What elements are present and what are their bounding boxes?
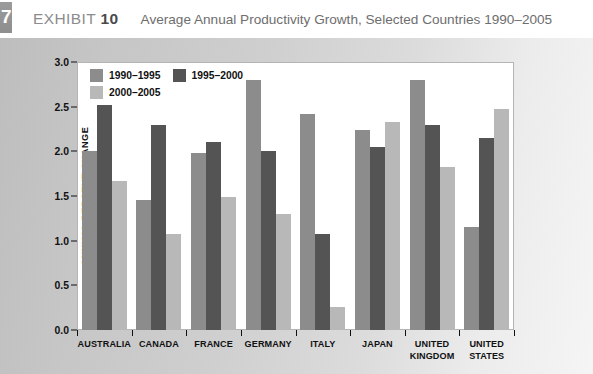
bar (191, 153, 206, 330)
x-axis-label-text: UNITEDSTATES (469, 339, 504, 361)
legend-swatch (173, 69, 186, 82)
x-axis-tick-mark (296, 330, 297, 336)
x-axis-label-text: ITALY (310, 339, 335, 349)
x-axis-tick-mark (459, 330, 460, 336)
bar (385, 122, 400, 330)
bar-group (132, 62, 187, 330)
bar (494, 109, 509, 330)
exhibit-label: EXHIBIT 10 (33, 10, 119, 28)
legend-label: 1995–2000 (192, 70, 244, 81)
exhibit-title: Average Annual Productivity Growth, Sele… (141, 12, 553, 27)
x-axis-label: UNITEDKINGDOM (405, 330, 460, 370)
bar (330, 307, 345, 330)
x-axis-tick-mark (77, 330, 78, 336)
bar-group (186, 62, 241, 330)
legend-item: 1990–1995 (90, 69, 161, 82)
x-axis-tick-mark (241, 330, 242, 336)
chapter-number-tab: 7 (0, 2, 12, 33)
bar (440, 167, 455, 330)
x-axis-label-text: CANADA (139, 339, 179, 349)
bar (410, 80, 425, 330)
x-axis-label-text: UNITEDKINGDOM (410, 339, 455, 361)
legend-item: 1995–2000 (173, 69, 244, 82)
legend-label: 2000–2005 (109, 87, 161, 98)
x-axis-label: ITALY (296, 330, 351, 370)
x-axis-label: CANADA (132, 330, 187, 370)
chart-legend: 1990–19951995–20002000–2005 (90, 69, 320, 99)
bar (221, 197, 236, 330)
bar-group (405, 62, 460, 330)
exhibit-header: 7 EXHIBIT 10 Average Annual Productivity… (0, 0, 593, 38)
x-axis-label-text: FRANCE (194, 339, 233, 349)
legend-label: 1990–1995 (109, 70, 161, 81)
bar-group (459, 62, 514, 330)
legend-swatch (90, 86, 103, 99)
exhibit-number: 10 (101, 10, 119, 27)
bar (166, 234, 181, 330)
bar (151, 125, 166, 330)
x-axis-label-text: AUSTRALIA (78, 339, 131, 349)
bar (425, 125, 440, 330)
chart: ANNUAL PERCENT CHANGE 0.00.51.01.52.02.5… (77, 62, 514, 330)
bar-group (241, 62, 296, 330)
bar (82, 151, 97, 330)
bar (206, 142, 221, 330)
bar (112, 181, 127, 330)
x-axis-labels: AUSTRALIACANADAFRANCEGERMANYITALYJAPANUN… (77, 330, 514, 370)
bar (276, 214, 291, 330)
bar-group (77, 62, 132, 330)
x-axis-tick-mark (186, 330, 187, 336)
x-axis-tick-mark (350, 330, 351, 336)
x-axis-label: JAPAN (350, 330, 405, 370)
bar (246, 80, 261, 330)
bar (300, 114, 315, 330)
bar (261, 151, 276, 330)
bar (464, 227, 479, 330)
x-axis-tick-mark (405, 330, 406, 336)
bar (315, 234, 330, 330)
bar-group (350, 62, 405, 330)
x-axis-tick-mark (132, 330, 133, 336)
bar (479, 138, 494, 330)
bar (355, 130, 370, 330)
x-axis-label-text: GERMANY (245, 339, 292, 349)
bar-groups (77, 62, 514, 330)
legend-item: 2000–2005 (90, 86, 161, 99)
exhibit-label-word: EXHIBIT (33, 10, 96, 27)
x-axis-tick-mark (514, 330, 515, 336)
x-axis-label: AUSTRALIA (77, 330, 132, 370)
x-axis-label-text: JAPAN (362, 339, 393, 349)
legend-swatch (90, 69, 103, 82)
x-axis-label: GERMANY (241, 330, 296, 370)
x-axis-label: FRANCE (186, 330, 241, 370)
bar (97, 105, 112, 330)
x-axis-label: UNITEDSTATES (459, 330, 514, 370)
bar (136, 200, 151, 330)
bar-group (296, 62, 351, 330)
bar (370, 147, 385, 330)
